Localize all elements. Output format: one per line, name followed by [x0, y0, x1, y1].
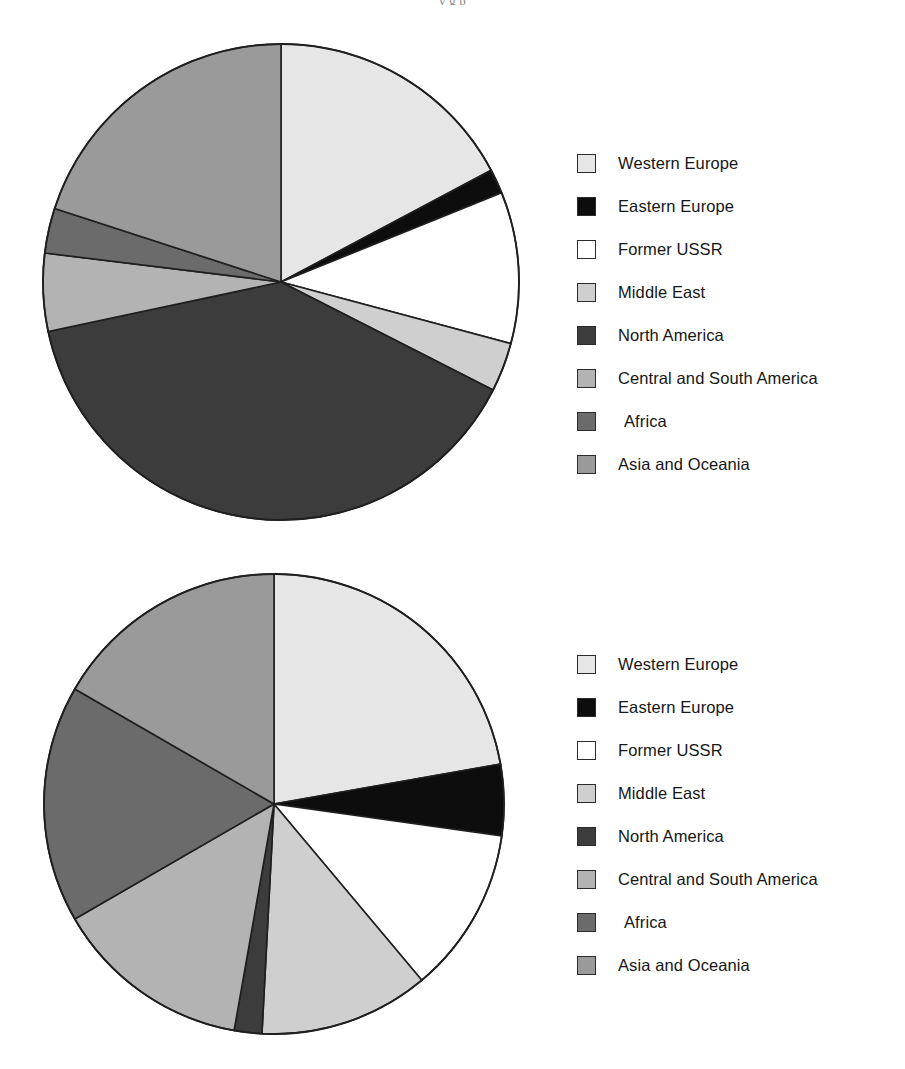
swatch-africa: [577, 412, 596, 431]
pie-bottom-svg: [43, 573, 505, 1035]
swatch-western-europe: [577, 154, 596, 173]
legend-label-asia-oceania: Asia and Oceania: [618, 956, 750, 975]
swatch-africa: [577, 913, 596, 932]
legend-item-eastern-europe[interactable]: Eastern Europe: [577, 185, 818, 228]
legend-item-central-south-america[interactable]: Central and South America: [577, 357, 818, 400]
legend-item-north-america[interactable]: North America: [577, 314, 818, 357]
swatch-eastern-europe: [577, 698, 596, 717]
legend-label-western-europe: Western Europe: [618, 154, 738, 173]
legend-item-north-america[interactable]: North America: [577, 815, 818, 858]
legend-item-western-europe[interactable]: Western Europe: [577, 142, 818, 185]
legend-label-north-america: North America: [618, 827, 724, 846]
swatch-middle-east: [577, 283, 596, 302]
legend-label-africa: Africa: [624, 412, 667, 431]
legend-item-former-ussr[interactable]: Former USSR: [577, 228, 818, 271]
legend-top: Western Europe Eastern Europe Former USS…: [577, 142, 818, 486]
legend-label-former-ussr: Former USSR: [618, 741, 723, 760]
swatch-north-america: [577, 827, 596, 846]
swatch-western-europe: [577, 655, 596, 674]
legend-label-north-america: North America: [618, 326, 724, 345]
legend-label-central-south-america: Central and South America: [618, 870, 818, 889]
legend-label-africa: Africa: [624, 913, 667, 932]
swatch-eastern-europe: [577, 197, 596, 216]
legend-label-middle-east: Middle East: [618, 283, 705, 302]
legend-label-asia-oceania: Asia and Oceania: [618, 455, 750, 474]
legend-item-former-ussr[interactable]: Former USSR: [577, 729, 818, 772]
legend-item-eastern-europe[interactable]: Eastern Europe: [577, 686, 818, 729]
legend-label-middle-east: Middle East: [618, 784, 705, 803]
pie-chart-top: [42, 43, 520, 521]
figure-bottom: Western Europe Eastern Europe Former USS…: [0, 520, 905, 1069]
swatch-middle-east: [577, 784, 596, 803]
swatch-asia-oceania: [577, 956, 596, 975]
legend-item-middle-east[interactable]: Middle East: [577, 772, 818, 815]
legend-label-central-south-america: Central and South America: [618, 369, 818, 388]
figure-top: Western Europe Eastern Europe Former USS…: [0, 0, 905, 520]
pie-chart-bottom: [43, 573, 505, 1035]
swatch-north-america: [577, 326, 596, 345]
legend-item-central-south-america[interactable]: Central and South America: [577, 858, 818, 901]
legend-item-africa[interactable]: Africa: [577, 400, 818, 443]
swatch-asia-oceania: [577, 455, 596, 474]
legend-label-former-ussr: Former USSR: [618, 240, 723, 259]
legend-item-asia-oceania[interactable]: Asia and Oceania: [577, 944, 818, 987]
swatch-former-ussr: [577, 240, 596, 259]
swatch-central-south-america: [577, 870, 596, 889]
legend-label-eastern-europe: Eastern Europe: [618, 698, 734, 717]
legend-item-africa[interactable]: Africa: [577, 901, 818, 944]
legend-label-eastern-europe: Eastern Europe: [618, 197, 734, 216]
swatch-central-south-america: [577, 369, 596, 388]
legend-bottom: Western Europe Eastern Europe Former USS…: [577, 643, 818, 987]
legend-item-asia-oceania[interactable]: Asia and Oceania: [577, 443, 818, 486]
swatch-former-ussr: [577, 741, 596, 760]
legend-item-western-europe[interactable]: Western Europe: [577, 643, 818, 686]
legend-item-middle-east[interactable]: Middle East: [577, 271, 818, 314]
legend-label-western-europe: Western Europe: [618, 655, 738, 674]
pie-top-svg: [42, 43, 520, 521]
